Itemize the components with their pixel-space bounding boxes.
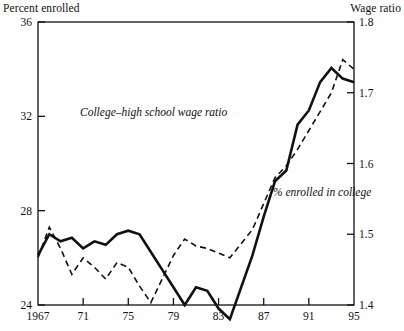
right-tick-label: 1.7 — [359, 87, 373, 99]
left-tick-label: 32 — [0, 110, 32, 122]
x-tick-label: 75 — [123, 310, 135, 322]
x-tick-label: 79 — [168, 310, 180, 322]
series-annotation-wage-ratio: College–high school wage ratio — [80, 106, 227, 118]
left-axis-ticks — [38, 22, 45, 305]
left-tick-label: 28 — [0, 205, 32, 217]
x-tick-label: 83 — [213, 310, 225, 322]
right-tick-label: 1.4 — [359, 299, 373, 311]
x-tick-label: 95 — [348, 310, 360, 322]
x-tick-label: 71 — [77, 310, 89, 322]
plot-frame — [38, 22, 354, 305]
chart-container: Percent enrolled Wage ratio 24283236 1.4… — [0, 0, 404, 331]
x-tick-label: 1967 — [27, 310, 50, 322]
right-tick-label: 1.8 — [359, 16, 373, 28]
plot-area — [0, 0, 404, 331]
left-tick-label: 36 — [0, 16, 32, 28]
right-tick-label: 1.6 — [359, 158, 373, 170]
plot-frame-rect — [38, 22, 354, 305]
x-tick-label: 87 — [258, 310, 270, 322]
series-annotation-enrollment: % enrolled in college — [273, 186, 371, 198]
right-axis-ticks — [347, 22, 354, 305]
right-tick-label: 1.5 — [359, 228, 373, 240]
series-line-2 — [38, 60, 354, 303]
x-tick-label: 91 — [303, 310, 315, 322]
x-axis-ticks — [83, 298, 309, 305]
